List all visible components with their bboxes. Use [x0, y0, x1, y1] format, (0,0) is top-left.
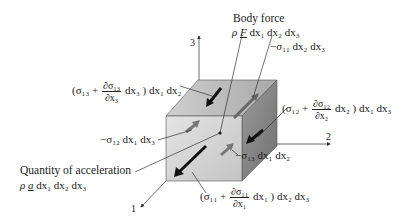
body-force-vector: F [240, 26, 247, 38]
label-sigma12-pos: (σ₁₂ + ∂σ₁₂ ∂x₂ dx₂ ) dx₁ dx₃ [282, 98, 391, 121]
body-force-expression: ρ F dx₁ dx₂ dx₃ [232, 26, 300, 38]
axis-1-label: 1 [131, 203, 136, 214]
label-sigma13-pos: (σ₁₃ + ∂σ₁₃ ∂x₃ dx₃ ) dx₁ dx₂ [72, 80, 181, 103]
label-sigma13-neg: −σ₁₃ dx₁ dx₂ [235, 149, 290, 161]
sigma13-pos-close: dx₃ ) dx₁ dx₂ [125, 84, 181, 96]
acceleration-differentials: dx₁ dx₂ dx₃ [36, 179, 86, 191]
acceleration-rho: ρ [20, 179, 25, 191]
sigma13-pos-fraction: ∂σ₁₃ ∂x₃ [102, 80, 121, 103]
sigma12-pos-numerator: ∂σ₁₂ [312, 98, 331, 110]
acceleration-title: Quantity of acceleration [20, 164, 131, 176]
sigma11-pos-fraction: ∂σ₁₁ ∂x₁ [230, 186, 249, 209]
label-sigma11-pos: (σ₁₁ + ∂σ₁₁ ∂x₁ dx₁ ) dx₂ dx₃ [200, 186, 309, 209]
sigma11-pos-open: (σ₁₁ + [200, 190, 226, 202]
sigma12-pos-close: dx₂ ) dx₁ dx₃ [335, 102, 391, 114]
sigma13-pos-open: (σ₁₃ + [72, 84, 98, 96]
sigma12-pos-fraction: ∂σ₁₂ ∂x₂ [312, 98, 331, 121]
sigma11-pos-close: dx₁ ) dx₂ dx₃ [253, 190, 309, 202]
label-sigma12-neg: −σ₁₂ dx₁ dx₃ [100, 133, 155, 145]
body-force-rho: ρ [232, 26, 237, 38]
body-force-title: Body force [233, 12, 284, 24]
sigma11-pos-numerator: ∂σ₁₁ [230, 186, 249, 198]
sigma13-pos-denominator: ∂x₃ [102, 92, 121, 103]
acceleration-expression: ρ a dx₁ dx₂ dx₃ [20, 179, 86, 191]
label-sigma11-neg: −σ₁₁ dx₂ dx₃ [270, 40, 325, 52]
axis-1 [141, 181, 166, 207]
acceleration-vector: a [28, 179, 34, 191]
sigma12-pos-denominator: ∂x₂ [312, 110, 331, 121]
body-force-differentials: dx₁ dx₂ dx₃ [250, 26, 300, 38]
axis-3-label: 3 [190, 37, 195, 48]
axis-2-label: 2 [326, 131, 331, 142]
sigma11-pos-denominator: ∂x₁ [230, 198, 249, 209]
sigma12-pos-open: (σ₁₂ + [282, 102, 308, 114]
sigma13-pos-numerator: ∂σ₁₃ [102, 80, 121, 92]
